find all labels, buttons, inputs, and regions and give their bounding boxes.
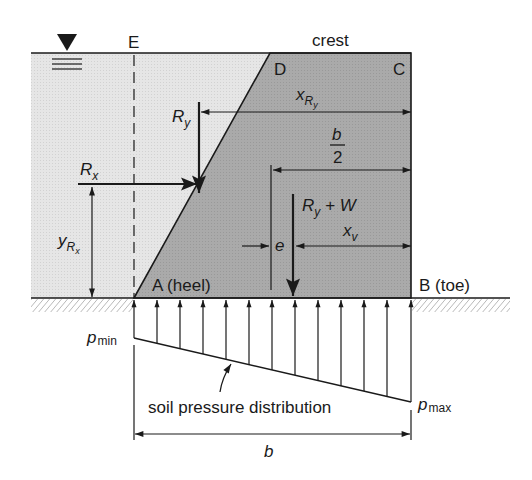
label-pmax: pmax	[417, 395, 451, 415]
label-D: D	[274, 60, 286, 79]
leader-arrow	[220, 364, 231, 392]
label-soil-pressure: soil pressure distribution	[148, 398, 331, 417]
label-pmin: pmin	[86, 328, 117, 348]
label-b: b	[264, 442, 273, 461]
water-surface-triangle-icon	[52, 34, 82, 69]
label-crest: crest	[312, 31, 349, 50]
label-E: E	[128, 33, 139, 52]
label-b-over-2-num: b	[332, 125, 341, 144]
label-C: C	[393, 60, 405, 79]
label-e: e	[275, 236, 284, 255]
label-A-heel: A (heel)	[152, 276, 211, 295]
label-b-over-2-den: 2	[333, 148, 342, 167]
ground-hatch-right	[412, 299, 510, 312]
gravity-dam-diagram: E crest D C Ry xRy b 2 Rx yRx Ry + W e x…	[0, 0, 532, 480]
ground-hatch-left	[31, 299, 133, 312]
soil-pressure-arrows	[134, 300, 411, 402]
label-B-toe: B (toe)	[419, 276, 470, 295]
